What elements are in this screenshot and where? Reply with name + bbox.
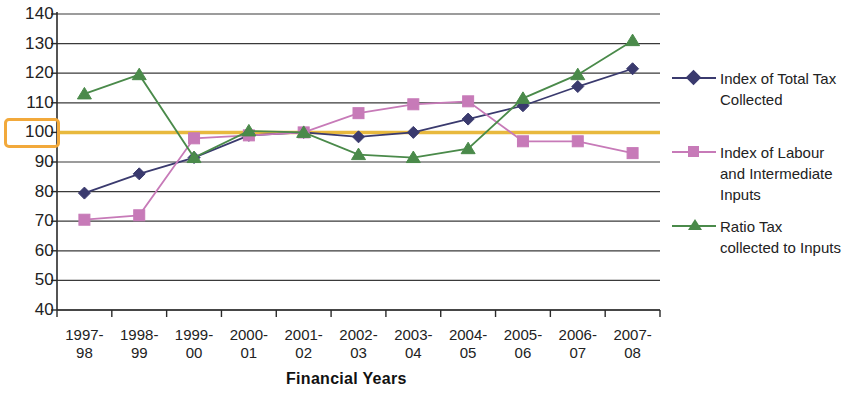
- y-axis-tick-label: 90: [8, 152, 54, 172]
- legend-label-line2: Collected: [720, 91, 783, 108]
- x-axis-tick-label: 1998-99: [108, 326, 170, 362]
- x-axis-tick-label: 2006-07: [547, 326, 609, 362]
- y-axis-tick-label: 140: [8, 4, 54, 24]
- x-axis-tick-label: 1997-98: [53, 326, 115, 362]
- data-point-marker: [189, 133, 200, 144]
- legend-label-line1: Index of Total Tax: [720, 70, 836, 87]
- data-point-marker: [407, 126, 419, 138]
- y-axis-tick-label: 110: [8, 93, 54, 113]
- legend-label-line2: collected to Inputs: [720, 239, 841, 256]
- legend-item-total-tax[interactable]: Index of Total Tax Collected: [672, 68, 836, 110]
- data-point-marker: [572, 81, 584, 93]
- legend-key-triangle-icon: [672, 217, 716, 235]
- line-chart: 140130120110100908070605040 1997-981998-…: [0, 0, 864, 397]
- data-point-marker: [77, 87, 91, 99]
- data-point-marker: [353, 108, 364, 119]
- legend-item-ratio-tax[interactable]: Ratio Tax collected to Inputs: [672, 216, 841, 258]
- data-point-marker: [517, 136, 528, 147]
- x-axis-tick-label: 2002-03: [328, 326, 390, 362]
- data-point-marker: [132, 68, 146, 80]
- data-point-marker: [462, 113, 474, 125]
- y-axis-tick-label: 60: [8, 241, 54, 261]
- legend-label-line1: Ratio Tax: [720, 218, 782, 235]
- legend-key-diamond-icon: [672, 69, 716, 87]
- y-axis-tick-label: 70: [8, 211, 54, 231]
- y-axis-tick-label: 40: [8, 300, 54, 320]
- legend-label-line3: Inputs: [720, 186, 761, 203]
- x-axis-tick-label: 2004-05: [437, 326, 499, 362]
- x-axis-tick-label: 2000-01: [218, 326, 280, 362]
- data-point-marker: [408, 99, 419, 110]
- y-axis-tick-label: 130: [8, 34, 54, 54]
- y-axis-100-highlight-box: [4, 118, 60, 148]
- legend-key-square-icon: [672, 143, 716, 161]
- x-axis-title: Financial Years: [286, 370, 407, 388]
- x-axis-tick-label: 2001-02: [273, 326, 335, 362]
- x-axis-tick-label: 1999-00: [163, 326, 225, 362]
- y-axis-tick-label: 50: [8, 270, 54, 290]
- data-point-marker: [516, 92, 530, 104]
- y-axis-tick-label: 120: [8, 63, 54, 83]
- data-point-marker: [79, 214, 90, 225]
- x-axis-tick-label: 2005-06: [492, 326, 554, 362]
- legend-label-line2: and Intermediate: [720, 165, 833, 182]
- data-point-marker: [134, 210, 145, 221]
- data-point-marker: [627, 148, 638, 159]
- data-point-marker: [626, 34, 640, 46]
- data-point-marker: [133, 168, 145, 180]
- y-axis-tick-label: 80: [8, 182, 54, 202]
- data-point-marker: [352, 148, 366, 160]
- x-axis-tick-label: 2003-04: [382, 326, 444, 362]
- data-point-marker: [463, 96, 474, 107]
- data-point-marker: [78, 187, 90, 199]
- x-axis-tick-label: 2007-08: [602, 326, 664, 362]
- legend-label-line1: Index of Labour: [720, 144, 824, 161]
- data-point-marker: [571, 68, 585, 80]
- data-point-marker: [572, 136, 583, 147]
- legend-item-labour-inputs[interactable]: Index of Labour and Intermediate Inputs: [672, 142, 833, 205]
